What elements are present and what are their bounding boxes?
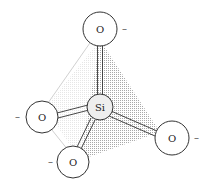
oxygen-label: O (38, 112, 46, 123)
oxygen-atom-bottom: O – (48, 146, 89, 178)
si-atom: Si (87, 94, 113, 120)
charge-label: – (122, 23, 127, 34)
si-label: Si (95, 102, 105, 113)
silicate-tetrahedron-diagram: Si O – O – O – O – (0, 0, 210, 191)
oxygen-atom-right: O – (155, 121, 199, 155)
oxygen-atom-top: O – (83, 12, 127, 46)
oxygen-label: O (168, 133, 176, 144)
oxygen-label: O (69, 157, 77, 168)
oxygen-atom-left: O – (15, 101, 58, 133)
charge-label: – (48, 156, 53, 167)
charge-label: – (15, 111, 20, 122)
charge-label: – (194, 132, 199, 143)
oxygen-label: O (96, 24, 104, 35)
